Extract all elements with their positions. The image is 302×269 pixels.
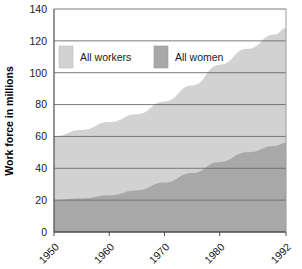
x-tick-label-1992: 1992 [268,240,293,265]
legend-swatch-all-workers [59,46,73,68]
y-tick-label-40: 40 [35,162,47,174]
y-axis-title-text: Work force in millions [3,66,15,176]
x-tick-label-group-1992: 1992 [268,240,293,265]
y-axis-tick-labels: 020406080100120140 [29,3,47,238]
x-tick-label-group-1960: 1960 [91,240,116,265]
x-tick-label-1970: 1970 [147,240,172,265]
y-axis-title: Work force in millions [3,66,15,176]
y-tick-label-120: 120 [29,35,47,47]
x-tick-label-1980: 1980 [202,240,227,265]
x-tick-label-group-1980: 1980 [202,240,227,265]
work-force-area-chart: 020406080100120140 19501960197019801992 … [0,0,302,269]
y-tick-label-140: 140 [29,3,47,15]
x-tick-label-group-1970: 1970 [147,240,172,265]
y-tick-label-0: 0 [41,226,47,238]
y-tick-label-60: 60 [35,130,47,142]
y-tick-label-100: 100 [29,67,47,79]
x-axis-tick-labels: 19501960197019801992 [36,240,293,265]
legend-label-all-workers: All workers [80,51,131,63]
chart-canvas: 020406080100120140 19501960197019801992 … [0,0,302,269]
y-tick-label-20: 20 [35,194,47,206]
x-tick-label-group-1950: 1950 [36,240,61,265]
x-tick-label-1960: 1960 [91,240,116,265]
y-tick-label-80: 80 [35,98,47,110]
legend-swatch-all-women [154,46,168,68]
legend-label-all-women: All women [175,51,224,63]
x-tick-label-1950: 1950 [36,240,61,265]
